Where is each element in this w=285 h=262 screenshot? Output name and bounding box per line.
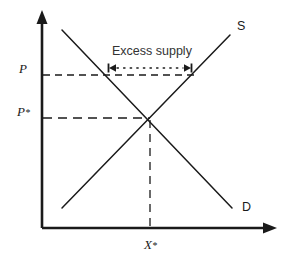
equilibrium-quantity-label-star: * <box>152 240 157 251</box>
price-above-equilibrium-label: P <box>19 62 27 75</box>
equilibrium-price-label-base: P <box>17 104 25 119</box>
excess-supply-left-arrowhead <box>109 64 116 72</box>
supply-demand-figure: S D P P* X* Excess supply <box>0 0 285 262</box>
equilibrium-price-label: P* <box>17 105 30 118</box>
supply-curve <box>62 35 230 208</box>
diagram-canvas <box>0 0 285 262</box>
excess-supply-label: Excess supply <box>112 45 192 58</box>
equilibrium-quantity-label: X* <box>144 238 157 251</box>
y-axis-arrowhead <box>37 10 48 24</box>
equilibrium-price-label-star: * <box>25 107 30 118</box>
demand-curve-label: D <box>242 201 251 214</box>
x-axis-arrowhead <box>263 223 277 234</box>
x-axis <box>42 223 277 234</box>
excess-supply-arrow <box>109 64 192 73</box>
y-axis <box>37 10 48 228</box>
equilibrium-quantity-label-base: X <box>144 237 152 252</box>
excess-supply-right-arrowhead <box>184 64 191 72</box>
supply-curve-label: S <box>237 20 245 33</box>
